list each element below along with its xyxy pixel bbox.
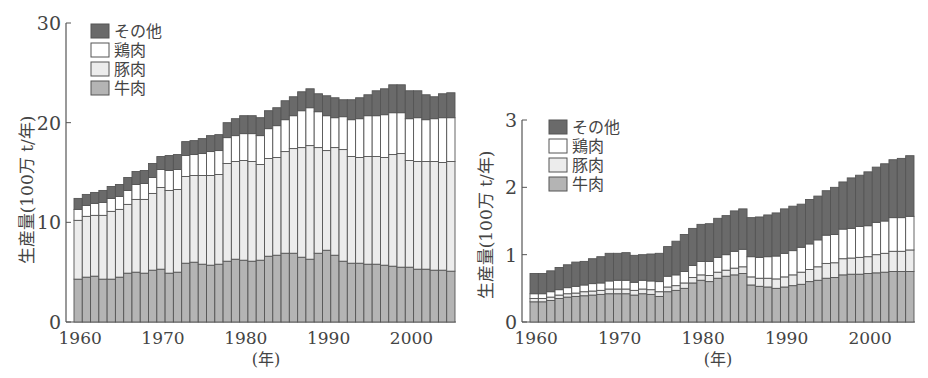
bar-segment (298, 92, 306, 111)
bar-segment (814, 280, 822, 322)
bar-segment (730, 275, 738, 322)
bar-segment (639, 255, 647, 281)
legend-label: その他 (114, 22, 162, 41)
bars (74, 85, 455, 322)
bar-segment (822, 235, 830, 263)
bar-segment (380, 265, 388, 322)
x-tick-label: 2000 (390, 328, 433, 348)
bar-segment (772, 288, 780, 322)
legend-label: 牛肉 (114, 79, 146, 98)
bar-segment (107, 198, 115, 211)
bar-segment (872, 167, 880, 222)
bar-segment (613, 280, 621, 289)
bar-segment (730, 268, 738, 275)
bar-segment (331, 148, 339, 256)
x-tick-label: 1980 (224, 328, 267, 348)
bar-segment (597, 283, 605, 290)
bar-segment (722, 276, 730, 322)
bar-segment (630, 295, 638, 322)
bar-segment (897, 218, 905, 252)
bar-segment (157, 187, 165, 269)
bar-segment (207, 152, 215, 176)
bar-segment (655, 282, 663, 292)
bar-segment (856, 274, 864, 322)
bar-segment (223, 261, 231, 322)
bar-segment (831, 278, 839, 322)
bar-segment (165, 273, 173, 322)
bar-segment (705, 276, 713, 282)
bar-segment (897, 272, 905, 323)
bar-segment (730, 251, 738, 268)
bar-segment (555, 298, 563, 322)
bar-segment (422, 120, 430, 162)
bar-segment (864, 226, 872, 257)
bar-segment (639, 289, 647, 294)
bar-segment (864, 257, 872, 274)
bar-segment (364, 95, 372, 116)
bar-segment (588, 259, 596, 284)
bar-segment (265, 111, 273, 129)
bar-segment (314, 112, 322, 148)
bar-segment (906, 156, 914, 217)
bar-segment (405, 91, 413, 119)
bar-segment (847, 274, 855, 322)
bar-segment (339, 117, 347, 150)
legend-swatch (91, 24, 109, 38)
bar-segment (430, 162, 438, 271)
bar-segment (755, 217, 763, 257)
bar-segment (622, 280, 630, 289)
bar-segment (755, 278, 763, 286)
bar-segment (730, 211, 738, 251)
bar-segment (273, 108, 281, 126)
bar-segment (772, 279, 780, 288)
bar-segment (822, 191, 830, 235)
bar-segment (132, 184, 140, 199)
bar-segment (889, 160, 897, 218)
bar-segment (714, 218, 722, 257)
x-tick-label: 1970 (141, 328, 184, 348)
bar-segment (839, 259, 847, 275)
bar-segment (231, 162, 239, 260)
bar-segment (655, 292, 663, 297)
bar-segment (789, 275, 797, 286)
bar-segment (380, 89, 388, 115)
legend-label: 豚肉 (114, 60, 146, 79)
bar-segment (215, 174, 223, 264)
bar-segment (124, 204, 132, 273)
bar-segment (747, 257, 755, 277)
bar-segment (322, 250, 330, 322)
bar-segment (115, 209, 123, 277)
bar-segment (831, 187, 839, 234)
bar-segment (182, 176, 190, 263)
bar-segment (132, 199, 140, 272)
bar-segment (831, 234, 839, 262)
bar-segment (538, 294, 546, 299)
bar-segment (405, 161, 413, 268)
bar-segment (697, 224, 705, 261)
bar-segment (881, 164, 889, 221)
bar-segment (322, 151, 330, 251)
bar-segment (215, 135, 223, 151)
legend-swatch (549, 177, 567, 191)
bar-segment (207, 175, 215, 265)
bar-segment (256, 118, 264, 136)
bar-segment (140, 273, 148, 322)
bar-segment (389, 113, 397, 155)
x-axis-label: (年) (252, 350, 280, 369)
bar-segment (430, 119, 438, 162)
bar-segment (772, 256, 780, 279)
bar-segment (780, 209, 788, 253)
bar-segment (422, 95, 430, 120)
bar-segment (347, 157, 355, 264)
bar-segment (322, 116, 330, 151)
legend-label: 豚肉 (572, 156, 604, 175)
bar-segment (364, 157, 372, 265)
bar-segment (273, 158, 281, 256)
bar-segment (530, 274, 538, 294)
bar-segment (215, 151, 223, 175)
bar-segment (572, 286, 580, 293)
bar-segment (157, 170, 165, 188)
bar-segment (613, 294, 621, 322)
bar-segment (74, 198, 82, 209)
bar-segment (563, 265, 571, 288)
